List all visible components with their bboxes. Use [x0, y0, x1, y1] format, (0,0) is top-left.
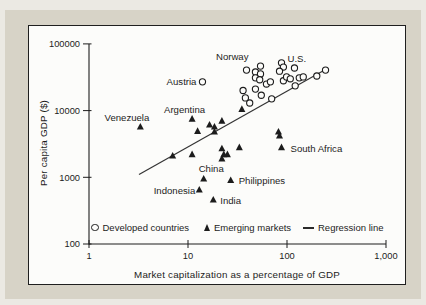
legend-item-developed-countries: Developed countries: [91, 222, 189, 233]
data-point-developed-country: [252, 86, 258, 92]
data-point-developed-country: [199, 79, 205, 85]
data-point-emerging-market: [236, 144, 243, 151]
country-label: Indonesia: [154, 185, 196, 196]
country-label: Venezuela: [105, 112, 150, 123]
x-tick-label: 1,000: [374, 251, 397, 261]
y-tick-label: 100: [64, 239, 80, 249]
country-label: Philippines: [239, 175, 286, 186]
y-tick-label: 10000: [54, 106, 80, 116]
x-tick-label: 1: [86, 251, 91, 261]
legend-label-developed: Developed countries: [103, 222, 190, 233]
data-point-emerging-market: [278, 144, 285, 151]
data-point-developed-country: [243, 67, 249, 73]
country-label: Argentina: [164, 104, 206, 115]
data-point-emerging-market: [194, 127, 201, 134]
page-background: { "chart_data": { "type": "scatter", "xl…: [0, 0, 426, 305]
data-point-developed-country: [322, 67, 328, 73]
data-point-developed-country: [257, 77, 263, 83]
legend: Developed countries Emerging markets Reg…: [29, 222, 405, 235]
legend-item-emerging-markets: Emerging markets: [204, 222, 291, 233]
country-label: India: [220, 195, 241, 206]
legend-label-regression: Regression line: [318, 222, 383, 233]
open-circle-marker-icon: [91, 224, 99, 232]
country-label: Norway: [216, 51, 249, 62]
line-marker-icon: [303, 227, 314, 229]
data-point-emerging-market: [189, 151, 196, 158]
data-point-developed-country: [292, 83, 298, 89]
country-label: Austria: [167, 76, 198, 87]
data-point-emerging-market: [200, 175, 207, 182]
y-axis-title: Per capita GDP ($): [38, 100, 49, 186]
chart-frame: 1001000100001000001101001,000NorwayU.S.A…: [28, 25, 406, 285]
x-axis-title: Market capitalization as a percentage of…: [134, 269, 340, 280]
data-point-emerging-market: [218, 117, 225, 124]
data-point-emerging-market: [275, 128, 282, 135]
scatter-plot-svg: 1001000100001000001101001,000NorwayU.S.A…: [29, 26, 405, 284]
legend-label-emerging: Emerging markets: [214, 222, 291, 233]
data-point-developed-country: [240, 87, 246, 93]
data-point-emerging-market: [238, 105, 245, 112]
data-point-developed-country: [300, 74, 306, 80]
data-point-developed-country: [258, 92, 264, 98]
x-tick-label: 10: [183, 251, 193, 261]
country-label: U.S.: [287, 53, 306, 64]
data-point-emerging-market: [137, 123, 144, 130]
data-point-emerging-market: [210, 196, 217, 203]
data-point-emerging-market: [206, 121, 213, 128]
filled-triangle-marker-icon: [204, 224, 210, 231]
data-point-developed-country: [287, 76, 293, 82]
x-tick-label: 100: [279, 251, 295, 261]
data-point-developed-country: [257, 63, 263, 69]
y-tick-label: 100000: [49, 39, 80, 49]
country-label: South Africa: [291, 143, 343, 154]
country-label: China: [199, 163, 225, 174]
figure-panel: 1001000100001000001101001,000NorwayU.S.A…: [5, 10, 421, 299]
data-point-developed-country: [276, 68, 282, 74]
data-point-developed-country: [247, 100, 253, 106]
data-point-developed-country: [314, 73, 320, 79]
data-point-emerging-market: [196, 186, 203, 193]
y-tick-label: 1000: [59, 173, 80, 183]
data-point-emerging-market: [169, 152, 176, 159]
data-point-developed-country: [269, 96, 275, 102]
data-point-emerging-market: [227, 176, 234, 183]
data-point-emerging-market: [218, 145, 225, 152]
data-point-emerging-market: [189, 115, 196, 122]
data-point-developed-country: [267, 79, 273, 85]
data-point-developed-country: [291, 65, 297, 71]
legend-item-regression-line: Regression line: [303, 222, 383, 233]
